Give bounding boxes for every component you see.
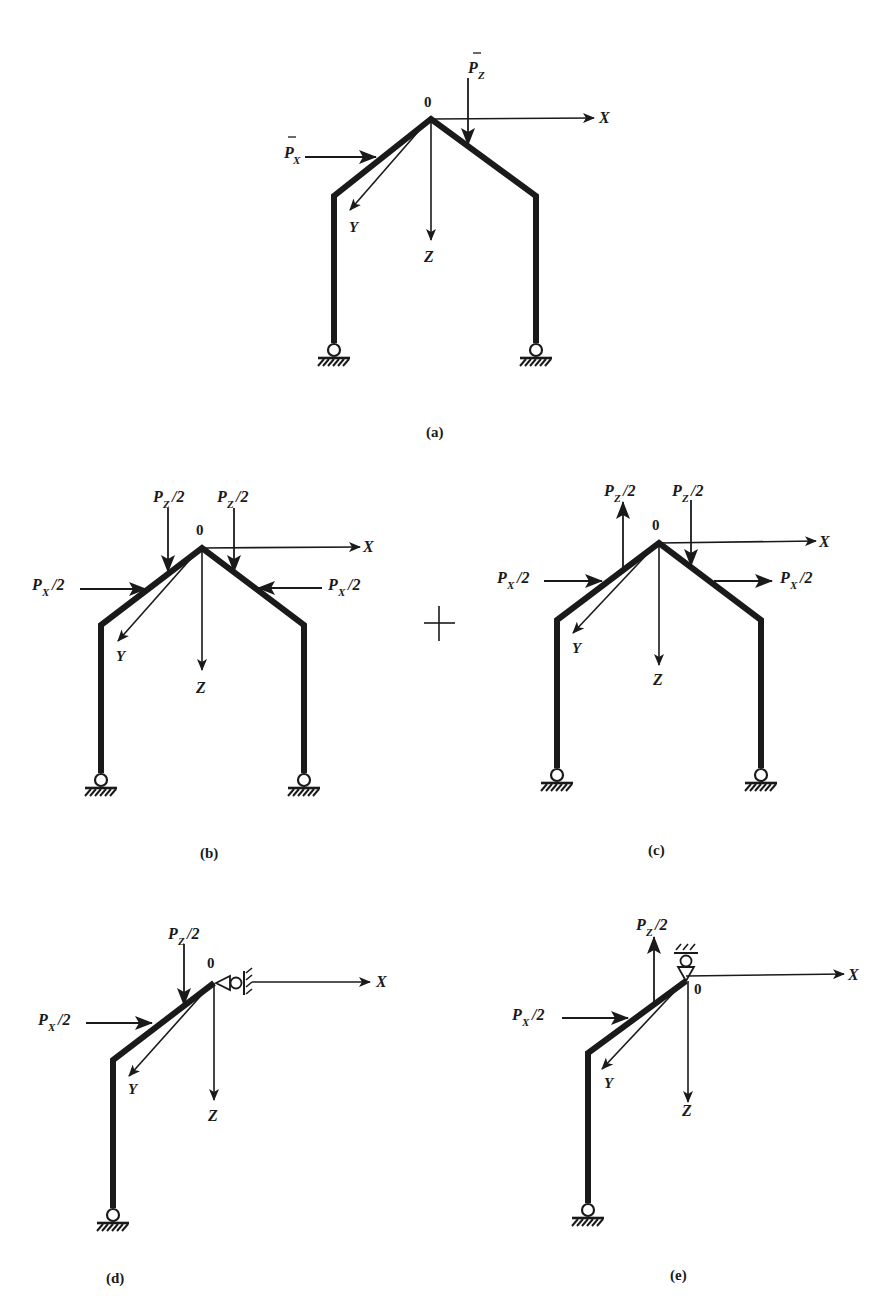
- panel-c: 0 X Z Y P Z /2 P Z /2 P X /2 P X /2: [496, 482, 830, 859]
- svg-text:/2: /2: [622, 482, 635, 499]
- svg-text:X: X: [506, 579, 515, 591]
- svg-text:P: P: [31, 576, 42, 593]
- pin-support-icon: [572, 1204, 604, 1226]
- svg-text:X: X: [41, 586, 50, 598]
- y-axis: [129, 990, 206, 1076]
- y-axis-label: Y: [128, 1081, 139, 1097]
- frame-member: [588, 981, 686, 1203]
- svg-text:Z: Z: [477, 69, 485, 81]
- caption-d: (d): [106, 1270, 124, 1287]
- load-label-px-half: P X /2: [779, 569, 812, 591]
- pin-support-icon: [85, 774, 117, 796]
- y-axis-label: Y: [604, 1075, 615, 1091]
- svg-text:P: P: [635, 916, 646, 933]
- y-axis-label: Y: [116, 648, 127, 664]
- svg-text:P: P: [327, 576, 338, 593]
- svg-text:Z: Z: [681, 492, 689, 504]
- svg-text:P: P: [511, 1006, 522, 1023]
- svg-text:Z: Z: [645, 926, 653, 938]
- x-axis-label: X: [375, 973, 387, 990]
- caption-b: (b): [200, 845, 218, 862]
- roller-support-icon: [216, 968, 252, 995]
- load-label-px-half: P X /2: [31, 576, 64, 598]
- svg-text:/2: /2: [347, 576, 360, 593]
- x-axis: [431, 118, 594, 119]
- svg-text:/2: /2: [690, 482, 703, 499]
- svg-text:P: P: [37, 1011, 48, 1028]
- x-axis-label: X: [818, 533, 830, 550]
- svg-text:X: X: [47, 1021, 56, 1033]
- origin-label: 0: [196, 522, 204, 538]
- svg-text:X: X: [789, 579, 798, 591]
- origin-label: 0: [207, 955, 215, 971]
- x-axis-label: X: [847, 966, 859, 983]
- svg-text:/2: /2: [57, 1011, 70, 1028]
- load-label-px: P X: [283, 137, 301, 166]
- y-axis: [602, 988, 678, 1069]
- load-label-pz-half: P Z /2: [167, 925, 199, 947]
- svg-text:X: X: [521, 1016, 530, 1028]
- panel-a: 0 X Z Y P X P Z (a): [283, 53, 610, 441]
- svg-text:Z: Z: [613, 492, 621, 504]
- x-axis-label: X: [362, 538, 374, 555]
- load-label-pz-half: P Z /2: [671, 482, 703, 504]
- x-axis: [686, 974, 844, 976]
- svg-text:/2: /2: [51, 576, 64, 593]
- svg-text:/2: /2: [171, 488, 184, 505]
- load-label-pz-half: P Z /2: [603, 482, 635, 504]
- load-label-pz-half: P Z /2: [152, 488, 184, 510]
- pin-support-icon: [97, 1209, 129, 1231]
- pin-support-icon: [541, 769, 573, 791]
- pin-support-icon: [520, 344, 552, 366]
- z-axis-label: Z: [423, 248, 434, 265]
- y-axis-label: Y: [572, 640, 583, 656]
- caption-c: (c): [648, 842, 665, 859]
- svg-text:/2: /2: [654, 916, 667, 933]
- y-axis: [350, 125, 424, 210]
- svg-text:/2: /2: [516, 569, 529, 586]
- svg-text:Z: Z: [162, 498, 170, 510]
- pin-support-icon: [288, 774, 320, 796]
- structural-frame-figure: 0 X Z Y P X P Z (a) 0 X Z Y P: [0, 0, 889, 1310]
- svg-text:/2: /2: [531, 1006, 544, 1023]
- load-label-px-half: P X /2: [327, 576, 360, 598]
- caption-e: (e): [670, 1267, 687, 1284]
- z-axis-label: Z: [207, 1107, 218, 1124]
- pin-support-icon: [745, 769, 777, 791]
- svg-text:P: P: [167, 925, 178, 942]
- svg-text:/2: /2: [186, 925, 199, 942]
- svg-text:P: P: [603, 482, 614, 499]
- caption-a: (a): [426, 424, 444, 441]
- pin-support-icon: [318, 344, 350, 366]
- load-label-pz: P Z: [467, 53, 485, 81]
- origin-label: 0: [424, 94, 432, 110]
- z-axis-label: Z: [652, 671, 663, 688]
- svg-text:Z: Z: [177, 935, 185, 947]
- svg-text:P: P: [779, 569, 790, 586]
- svg-text:P: P: [496, 569, 507, 586]
- load-label-pz-half: P Z /2: [216, 488, 248, 510]
- z-axis-label: Z: [681, 1102, 692, 1119]
- x-axis-label: X: [598, 109, 610, 126]
- frame-members: [334, 119, 536, 343]
- load-label-px-half: P X /2: [496, 569, 529, 591]
- load-label-px-half: P X /2: [511, 1006, 544, 1028]
- load-label-pz-half: P Z /2: [635, 916, 667, 938]
- origin-label: 0: [652, 517, 660, 533]
- y-axis: [573, 549, 652, 633]
- x-axis: [659, 541, 816, 543]
- y-axis: [118, 554, 195, 641]
- panel-e: 0 X Z Y P Z /2 P X /2 (e): [511, 916, 859, 1284]
- svg-text:P: P: [467, 59, 478, 76]
- svg-text:X: X: [337, 586, 346, 598]
- z-axis-label: Z: [195, 679, 206, 696]
- origin-label: 0: [694, 981, 702, 997]
- svg-text:P: P: [152, 488, 163, 505]
- svg-text:/2: /2: [799, 569, 812, 586]
- svg-text:X: X: [292, 154, 301, 166]
- panel-d: 0 X Z Y P Z /2 P X /2 (d): [37, 925, 387, 1287]
- svg-text:P: P: [671, 482, 682, 499]
- load-label-px-half: P X /2: [37, 1011, 70, 1033]
- panel-b: 0 X Z Y P Z /2 P Z /2 P X /2 P X /2: [31, 488, 374, 862]
- y-axis-label: Y: [349, 219, 360, 235]
